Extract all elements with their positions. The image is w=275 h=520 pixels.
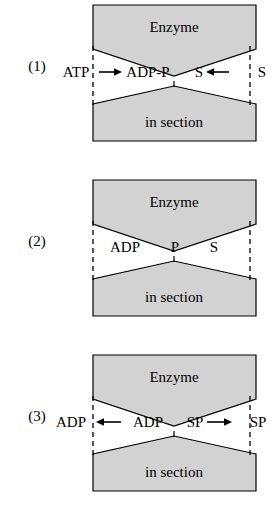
panel-1-right-inner-label: S [195, 65, 203, 80]
membrane-transport-diagram: (1) Enzyme in section ATP ADP- [0, 0, 275, 520]
left-arrow-left [96, 418, 121, 426]
diagram-panel-3: (3) Enzyme in section ADP ADP SP SP [0, 350, 275, 500]
panel-1-top-shape-label: Enzyme [149, 20, 198, 35]
panel-3-left-outer-label: ADP [56, 415, 86, 430]
panel-1-left-outer-label: ATP [63, 65, 90, 80]
enzyme-top-shape [93, 5, 256, 76]
panel-1-bottom-shape-label: in section [145, 115, 203, 130]
right-arrow-right [207, 418, 232, 426]
panel-3-top-shape-label: Enzyme [149, 370, 198, 385]
panel-3-left-inner-label: ADP [133, 415, 163, 430]
panel-2-right-inner-label: S [210, 240, 218, 255]
diagram-panel-2: (2) Enzyme in section ADP P S [0, 175, 275, 325]
right-arrow-left [206, 68, 229, 76]
left-arrow-right [99, 68, 122, 76]
diagram-panel-1: (1) Enzyme in section ATP ADP- [0, 0, 275, 150]
panel-2-bottom-shape-label: in section [145, 290, 203, 305]
panel-1-left-inner-label: ADP-P [126, 65, 169, 80]
panel-3-bottom-shape-label: in section [145, 465, 203, 480]
panel-3-right-inner-label: SP [187, 415, 204, 430]
panel-3-right-outer-label: SP [250, 415, 267, 430]
panel-2-center-label: P [171, 240, 179, 255]
panel-2-top-shape-label: Enzyme [149, 195, 198, 210]
enzyme-top-shape [93, 355, 256, 426]
panel-2-left-inner-label: ADP [110, 240, 140, 255]
panel-1-right-outer-label: S [258, 65, 266, 80]
